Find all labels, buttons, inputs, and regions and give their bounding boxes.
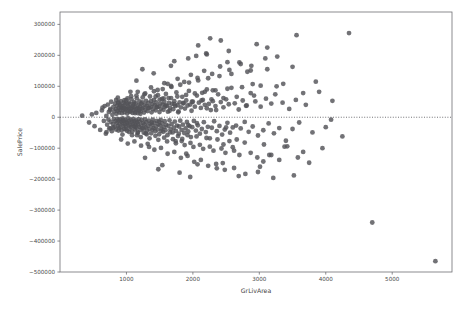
- scatter-point: [213, 104, 218, 109]
- scatter-point: [191, 145, 196, 150]
- scatter-point: [175, 76, 180, 81]
- scatter-point: [121, 118, 126, 123]
- scatter-point: [217, 124, 222, 129]
- scatter-point: [157, 119, 162, 124]
- scatter-point: [129, 94, 134, 99]
- scatter-point: [274, 84, 279, 89]
- scatter-point: [204, 136, 209, 141]
- scatter-point: [280, 100, 285, 105]
- scatter-point: [246, 129, 251, 134]
- scatter-point: [265, 67, 270, 72]
- y-tick-label: 0: [51, 114, 55, 120]
- y-tick-label: 200000: [34, 52, 56, 58]
- scatter-point: [104, 130, 109, 135]
- scatter-point: [433, 259, 438, 264]
- scatter-point: [297, 120, 302, 125]
- scatter-point: [181, 101, 186, 106]
- scatter-point: [347, 31, 352, 36]
- scatter-point: [142, 92, 147, 97]
- scatter-point: [329, 117, 334, 122]
- scatter-point: [163, 128, 168, 133]
- scatter-point: [116, 128, 121, 133]
- scatter-point: [317, 89, 322, 94]
- scatter-point: [287, 106, 292, 111]
- scatter-point: [176, 131, 181, 136]
- scatter-point: [221, 96, 226, 101]
- scatter-point: [208, 36, 213, 41]
- x-tick-label: 1000: [119, 276, 134, 282]
- scatter-point: [265, 45, 270, 50]
- scatter-point: [87, 120, 92, 125]
- scatter-point: [156, 167, 161, 172]
- scatter-point: [255, 155, 260, 160]
- scatter-point: [234, 137, 239, 142]
- scatter-point: [223, 150, 228, 155]
- scatter-point: [205, 124, 210, 129]
- scatter-point: [254, 42, 259, 47]
- scatter-point: [188, 175, 193, 180]
- scatter-point: [202, 68, 207, 73]
- y-tick-label: −500000: [29, 269, 55, 275]
- scatter-point: [194, 134, 199, 139]
- scatter-point: [194, 121, 199, 126]
- scatter-point: [307, 160, 312, 165]
- scatter-point: [172, 102, 177, 107]
- scatter-point: [186, 89, 191, 94]
- scatter-point: [125, 101, 130, 106]
- scatter-point: [160, 163, 165, 168]
- y-tick-label: −300000: [29, 207, 55, 213]
- scatter-point: [282, 144, 287, 149]
- scatter-point: [120, 132, 125, 137]
- scatter-point: [236, 174, 241, 179]
- scatter-point: [133, 124, 138, 129]
- scatter-point: [227, 139, 232, 144]
- scatter-point: [184, 151, 189, 156]
- scatter-point: [184, 93, 189, 98]
- scatter-point: [214, 108, 219, 113]
- scatter-point: [210, 72, 215, 77]
- scatter-point: [269, 101, 274, 106]
- scatter-point: [261, 128, 266, 133]
- scatter-point: [303, 102, 308, 107]
- scatter-point: [281, 81, 286, 86]
- scatter-point: [174, 90, 179, 95]
- scatter-point: [242, 140, 247, 145]
- scatter-point: [227, 67, 232, 72]
- scatter-point: [92, 124, 97, 129]
- scatter-point: [143, 155, 148, 160]
- scatter-point: [128, 109, 133, 114]
- scatter-point: [258, 83, 263, 88]
- scatter-point: [156, 137, 161, 142]
- scatter-point: [153, 94, 158, 99]
- scatter-point: [199, 98, 204, 103]
- scatter-point: [272, 131, 277, 136]
- scatter-point: [250, 124, 255, 129]
- scatter-point: [149, 99, 154, 104]
- scatter-point: [194, 54, 199, 59]
- scatter-point: [200, 90, 205, 95]
- scatter-point: [240, 85, 245, 90]
- scatter-point: [159, 145, 164, 150]
- scatter-point: [160, 87, 165, 92]
- scatter-point: [225, 120, 230, 125]
- scatter-point: [159, 128, 164, 133]
- scatter-point: [154, 104, 159, 109]
- residual-plot-figure: — ——— —— — —— —— ———— ——— 10002000300040…: [0, 0, 465, 310]
- scatter-point: [253, 99, 258, 104]
- scatter-point: [130, 133, 135, 138]
- scatter-point: [139, 143, 144, 148]
- scatter-point: [214, 166, 219, 171]
- scatter-point: [209, 97, 214, 102]
- y-axis-title: SalePrice: [16, 128, 23, 157]
- scatter-point: [178, 82, 183, 87]
- scatter-point: [313, 79, 318, 84]
- scatter-point: [196, 43, 201, 48]
- scatter-point: [211, 148, 216, 153]
- scatter-point: [108, 108, 113, 113]
- scatter-point: [186, 56, 191, 61]
- scatter-point: [267, 153, 272, 158]
- scatter-point: [152, 147, 157, 152]
- x-tick-label: 4000: [319, 276, 334, 282]
- scatter-point: [178, 118, 183, 123]
- scatter-point: [187, 80, 192, 85]
